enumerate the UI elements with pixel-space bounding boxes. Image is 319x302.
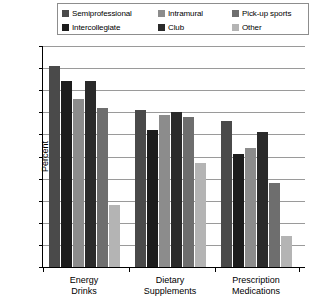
y-tick-mark <box>39 245 43 246</box>
legend-label: Intramural <box>168 9 203 18</box>
x-axis-group-label-line: Supplements <box>122 286 218 297</box>
x-axis-group-label-line: Prescription <box>208 275 304 286</box>
bar-intramural[interactable] <box>73 99 84 267</box>
bar-semiprofessional[interactable] <box>221 121 232 267</box>
x-tick-mark <box>299 268 300 272</box>
bar-group-prescription-medications <box>221 46 292 267</box>
x-axis-group-label: DietarySupplements <box>122 275 218 297</box>
bar-chart-figure: SemiprofessionalIntramuralPick-up sports… <box>0 0 319 302</box>
bar-intercollegiate[interactable] <box>61 81 72 267</box>
x-tick-mark <box>215 268 216 272</box>
bar-other[interactable] <box>195 163 206 267</box>
y-tick-mark <box>39 223 43 224</box>
y-tick-mark <box>39 179 43 180</box>
bar-pick-up-sports[interactable] <box>183 117 194 267</box>
bar-intercollegiate[interactable] <box>147 130 158 267</box>
legend-item-semiprofessional[interactable]: Semiprofessional <box>62 9 158 18</box>
legend-label: Pick-up sports <box>242 9 291 18</box>
legend-label: Club <box>168 23 184 32</box>
x-tick-mark <box>43 268 44 272</box>
x-axis-group-label-line: Energy <box>36 275 132 286</box>
x-tick-mark <box>129 268 130 272</box>
bar-pick-up-sports[interactable] <box>97 108 108 267</box>
x-axis-group-label-line: Drinks <box>36 286 132 297</box>
bar-pick-up-sports[interactable] <box>269 183 280 267</box>
x-axis-line <box>43 267 305 268</box>
legend-swatch-icon <box>158 24 165 31</box>
bar-group-dietary-supplements <box>135 46 206 267</box>
x-axis-group-label: PrescriptionMedications <box>208 275 304 297</box>
bar-semiprofessional[interactable] <box>49 66 60 267</box>
y-tick-mark <box>39 134 43 135</box>
bar-club[interactable] <box>171 112 182 267</box>
x-axis-group-label-line: Dietary <box>122 275 218 286</box>
y-tick-mark <box>39 90 43 91</box>
legend-swatch-icon <box>62 24 69 31</box>
y-tick-mark <box>39 112 43 113</box>
y-axis-label: Percent <box>40 141 50 172</box>
plot-area <box>42 46 305 268</box>
legend-label: Other <box>242 23 262 32</box>
legend-row: SemiprofessionalIntramuralPick-up sports <box>62 6 308 20</box>
legend-item-intercollegiate[interactable]: Intercollegiate <box>62 23 158 32</box>
bar-semiprofessional[interactable] <box>135 110 146 267</box>
legend-swatch-icon <box>232 10 239 17</box>
x-axis-group-label: EnergyDrinks <box>36 275 132 297</box>
chart-legend: SemiprofessionalIntramuralPick-up sports… <box>57 3 309 35</box>
legend-swatch-icon <box>232 24 239 31</box>
bar-other[interactable] <box>281 236 292 267</box>
bar-intramural[interactable] <box>245 148 256 267</box>
bar-group-energy-drinks <box>49 46 120 267</box>
legend-label: Semiprofessional <box>72 9 132 18</box>
legend-item-other[interactable]: Other <box>232 23 262 32</box>
legend-label: Intercollegiate <box>72 23 120 32</box>
y-tick-mark <box>39 68 43 69</box>
y-tick-mark <box>39 201 43 202</box>
x-axis-group-label-line: Medications <box>208 286 304 297</box>
legend-swatch-icon <box>62 10 69 17</box>
bar-intramural[interactable] <box>159 115 170 267</box>
bar-other[interactable] <box>109 205 120 267</box>
legend-swatch-icon <box>158 10 165 17</box>
legend-item-club[interactable]: Club <box>158 23 232 32</box>
bar-club[interactable] <box>257 132 268 267</box>
bar-intercollegiate[interactable] <box>233 154 244 267</box>
bar-club[interactable] <box>85 81 96 267</box>
legend-item-pick-up-sports[interactable]: Pick-up sports <box>232 9 291 18</box>
legend-row: IntercollegiateClubOther <box>62 20 308 34</box>
plot-wrapper: Percent 0102030405060708090100 <box>42 46 305 268</box>
legend-item-intramural[interactable]: Intramural <box>158 9 232 18</box>
y-tick-mark <box>39 46 43 47</box>
